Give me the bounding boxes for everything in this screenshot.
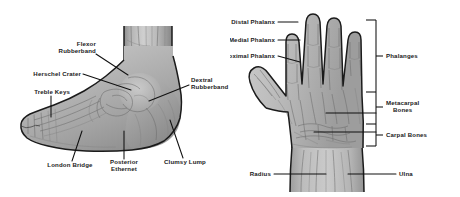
- label-dextral-rubberband-line2: Rubberband: [191, 83, 229, 90]
- label-carpal-bones: Carpal Bones: [386, 131, 428, 138]
- label-metacarpal-bones-line2: Bones: [393, 106, 413, 113]
- label-ulna: Ulna: [399, 170, 413, 177]
- label-proximal-phalanx: Proximal Phalanx: [230, 52, 275, 59]
- label-treble-keys: Treble Keys: [34, 88, 70, 95]
- foot-illustration-svg: Flexor Rubberband Herschel Crater Treble…: [0, 0, 230, 197]
- label-clumsy-lump: Clumsy Lump: [164, 158, 206, 165]
- hand-illustration-svg: Distal Phalanx Medial Phalanx Proximal P…: [230, 0, 460, 197]
- foot-anatomy-figure: Flexor Rubberband Herschel Crater Treble…: [0, 0, 230, 197]
- label-dextral-rubberband-line1: Dextral: [191, 76, 213, 83]
- label-posterior-ethernet-line2: Ethernet: [111, 165, 137, 172]
- hand-measurement-brackets: [366, 20, 383, 146]
- label-metacarpal-bones-line1: Metacarpal: [386, 99, 419, 106]
- hand-anatomy-figure: Distal Phalanx Medial Phalanx Proximal P…: [230, 0, 460, 197]
- hand-body-illustration: [249, 14, 363, 148]
- label-posterior-ethernet-line1: Posterior: [110, 158, 139, 165]
- label-medial-phalanx: Medial Phalanx: [230, 36, 275, 43]
- label-radius: Radius: [250, 170, 272, 177]
- foot-body-illustration: [21, 46, 182, 151]
- label-phalanges: Phalanges: [386, 52, 418, 59]
- label-london-bridge: London Bridge: [47, 161, 93, 168]
- label-flexor-rubberband-line2: Rubberband: [59, 47, 97, 54]
- forearm-illustration: [290, 146, 364, 192]
- label-herschel-crater: Herschel Crater: [33, 70, 81, 77]
- label-flexor-rubberband-line1: Flexor: [77, 40, 97, 47]
- label-distal-phalanx: Distal Phalanx: [231, 18, 275, 25]
